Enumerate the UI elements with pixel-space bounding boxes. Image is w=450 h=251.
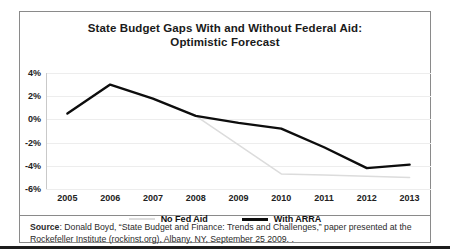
chart-card: State Budget Gaps With and Without Feder… <box>20 12 430 216</box>
x-tick-label: 2010 <box>271 193 291 203</box>
x-tick-label: 2007 <box>143 193 163 203</box>
x-tick-label: 2011 <box>314 193 334 203</box>
legend-swatch-no-fed-aid <box>129 218 155 220</box>
y-tick-label: 0% <box>28 114 41 124</box>
x-tick-label: 2006 <box>100 193 120 203</box>
source-note: Source: Donald Boyd, “State Budget and F… <box>30 222 422 245</box>
y-tick-label: 4% <box>28 68 41 78</box>
source-label: Source <box>30 222 59 232</box>
x-tick-label: 2005 <box>57 193 77 203</box>
chart-title-line1: State Budget Gaps With and Without Feder… <box>88 22 362 34</box>
x-tick-label: 2008 <box>186 193 206 203</box>
chart-title-line2: Optimistic Forecast <box>20 35 430 49</box>
y-tick-label: -6% <box>25 184 41 194</box>
gridline-neg6 <box>46 189 431 190</box>
bottom-rule <box>0 246 450 249</box>
x-tick-label: 2009 <box>228 193 248 203</box>
figure-container: State Budget Gaps With and Without Feder… <box>19 11 431 243</box>
x-tick-label: 2013 <box>400 193 420 203</box>
x-tick-label: 2012 <box>357 193 377 203</box>
source-text: : Donald Boyd, “State Budget and Finance… <box>30 222 412 244</box>
y-tick-label: -2% <box>25 138 41 148</box>
plot-area: 4%2%0%-2%-4%-6% <box>46 73 431 189</box>
chart-title: State Budget Gaps With and Without Feder… <box>20 21 430 49</box>
series-line-with-arra <box>67 85 409 169</box>
y-tick-label: 2% <box>28 91 41 101</box>
y-tick-label: -4% <box>25 161 41 171</box>
legend-swatch-with-arra <box>242 218 268 221</box>
x-axis-ticks: 200520062007200820092010201120122013 <box>46 193 431 207</box>
series-layer <box>46 73 431 189</box>
